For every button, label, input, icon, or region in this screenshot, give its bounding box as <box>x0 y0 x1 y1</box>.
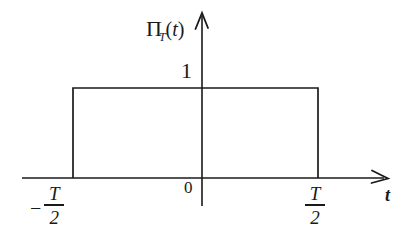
fraction-numerator: T <box>308 184 323 204</box>
fraction-numerator: T <box>47 184 62 204</box>
function-argument: (t) <box>166 18 185 40</box>
x-tick-label-negative-half-T: − T 2 <box>30 184 64 227</box>
minus-sign: − <box>30 197 41 220</box>
fraction-denominator: 2 <box>48 206 62 227</box>
paren-close: ) <box>178 18 185 40</box>
x-axis-label: t <box>385 186 390 204</box>
fraction-T-over-2: T 2 <box>44 184 64 227</box>
pi-subscript-T: T <box>159 30 166 44</box>
x-axis-arrow-icon <box>372 171 389 184</box>
function-label: ΠT(t) <box>146 18 184 43</box>
origin-label: 0 <box>184 179 193 196</box>
fraction-T-over-2: T 2 <box>305 184 325 227</box>
x-tick-label-positive-half-T: T 2 <box>305 184 325 227</box>
pulse-waveform <box>73 88 318 178</box>
rect-pulse-figure: ΠT(t) 1 0 t − T 2 T 2 <box>0 0 410 248</box>
y-tick-label-one: 1 <box>181 60 192 82</box>
fraction-denominator: 2 <box>308 206 322 227</box>
